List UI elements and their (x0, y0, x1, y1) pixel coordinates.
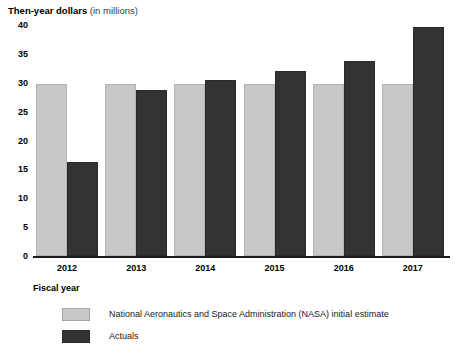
legend-label-actuals: Actuals (109, 331, 139, 341)
bar-group-2013 (105, 25, 167, 256)
bar-estimate-2013 (105, 84, 136, 256)
y-axis-tick-10: 10 (18, 193, 28, 203)
bar-actual-2015 (275, 71, 306, 256)
bar-group-2017 (382, 25, 444, 256)
legend-label-estimate: National Aeronautics and Space Administr… (109, 309, 389, 319)
y-axis-tick-40: 40 (18, 20, 28, 30)
x-axis-title: Fiscal year (33, 283, 80, 293)
y-axis-tick-15: 15 (18, 164, 28, 174)
bar-group-2012 (36, 25, 98, 256)
bar-actual-2016 (344, 61, 375, 256)
y-axis-tick-0: 0 (23, 251, 28, 261)
x-axis-tick-2015: 2015 (264, 263, 284, 273)
y-axis-tick-35: 35 (18, 49, 28, 59)
bar-estimate-2015 (244, 84, 275, 256)
bar-chart: Then-year dollars (in millions) 05101520… (0, 0, 455, 353)
chart-title-bold: Then-year dollars (8, 5, 87, 16)
bar-actual-2013 (136, 90, 167, 256)
x-axis-line (33, 256, 450, 258)
y-axis-tick-20: 20 (18, 136, 28, 146)
bar-estimate-2014 (174, 84, 205, 256)
legend-swatch-actuals-icon (62, 330, 90, 343)
x-axis-tick-2013: 2013 (126, 263, 146, 273)
y-axis-tick-5: 5 (23, 222, 28, 232)
bar-group-2016 (313, 25, 375, 256)
x-axis-tick-2012: 2012 (57, 263, 77, 273)
bar-estimate-2016 (313, 84, 344, 256)
bar-actual-2012 (67, 162, 98, 256)
legend-swatch-estimate-icon (62, 308, 90, 321)
bar-estimate-2012 (36, 84, 67, 256)
chart-title: Then-year dollars (in millions) (8, 5, 138, 16)
chart-title-units: (in millions) (87, 5, 138, 16)
bar-group-2015 (244, 25, 306, 256)
y-axis-tick-25: 25 (18, 107, 28, 117)
x-axis-tick-2016: 2016 (334, 263, 354, 273)
x-axis-tick-2017: 2017 (403, 263, 423, 273)
plot-area: 0510152025303540201220132014201520162017 (33, 25, 448, 256)
y-axis-tick-30: 30 (18, 78, 28, 88)
bar-estimate-2017 (382, 84, 413, 256)
bar-actual-2014 (205, 80, 236, 256)
legend-item-estimate: National Aeronautics and Space Administr… (62, 305, 442, 323)
legend-item-actuals: Actuals (62, 327, 442, 345)
chart-legend: National Aeronautics and Space Administr… (62, 305, 442, 349)
bar-group-2014 (174, 25, 236, 256)
bar-actual-2017 (413, 27, 444, 256)
x-axis-tick-2014: 2014 (195, 263, 215, 273)
